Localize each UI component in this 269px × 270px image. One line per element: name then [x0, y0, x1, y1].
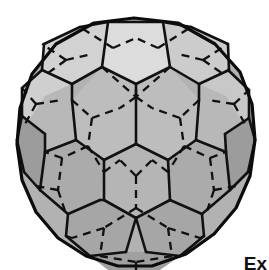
figure-caption-ex: Ex: [244, 254, 267, 270]
visible-edge-27: [225, 134, 226, 152]
truncated-icosahedron-diagram: [0, 0, 269, 270]
figure-container: Ex: [0, 0, 269, 270]
